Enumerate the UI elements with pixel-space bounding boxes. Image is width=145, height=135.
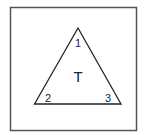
vertex-label-2: 2 [45, 92, 51, 104]
vertex-label-3: 3 [105, 92, 111, 104]
vertex-label-1: 1 [75, 37, 81, 49]
diagram-canvas: 1 T 2 3 [0, 0, 145, 135]
triangle-center-label: T [73, 68, 82, 85]
